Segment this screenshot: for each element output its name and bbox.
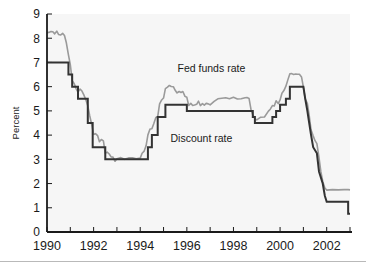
footer-divider-rule [0,261,366,262]
y-tick-label: 6 [33,80,40,94]
y-tick-label: 9 [33,7,40,21]
x-tick-label: 1994 [126,239,154,253]
x-tick-label: 1996 [173,239,201,253]
y-tick-label: 2 [33,177,40,191]
x-tick-label: 1998 [220,239,248,253]
y-tick-label: 4 [33,128,40,142]
figure-container: 0123456789 1990199219941996199820002002 … [0,0,366,272]
fed-funds-discount-rate-chart: 0123456789 1990199219941996199820002002 … [0,0,366,272]
y-tick-label: 8 [33,32,40,46]
y-tick-label: 7 [33,56,40,70]
annotation-discount-rate: Discount rate [171,132,233,144]
x-tick-label: 1992 [80,239,108,253]
x-tick-label: 2002 [313,239,341,253]
y-tick-label: 0 [33,225,40,239]
y-tick-label: 3 [33,153,40,167]
y-tick-label: 5 [33,104,40,118]
x-tick-label: 2000 [266,239,294,253]
annotation-fed-funds-rate: Fed funds rate [178,62,246,74]
y-axis-title: Percent [10,106,21,139]
y-tick-label: 1 [33,201,40,215]
x-tick-label: 1990 [33,239,61,253]
